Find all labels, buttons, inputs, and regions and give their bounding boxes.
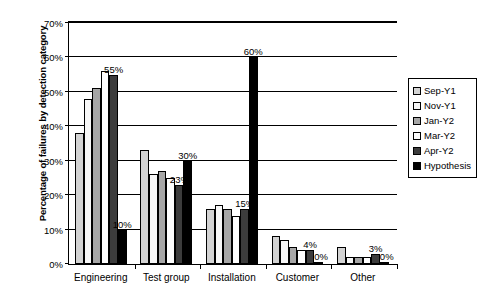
- bar[interactable]: [363, 257, 372, 264]
- bar[interactable]: 10%: [118, 230, 127, 264]
- y-tick-label: 60%: [19, 52, 69, 63]
- bar-value-label: 10%: [113, 219, 132, 230]
- bar[interactable]: [280, 240, 289, 264]
- legend-label: Mar-Y2: [424, 131, 455, 141]
- bar[interactable]: [215, 205, 224, 264]
- legend-label: Jan-Y2: [424, 116, 454, 126]
- y-tick-label: 30%: [19, 155, 69, 166]
- bar[interactable]: 23%: [175, 185, 184, 264]
- bar-value-label: 4%: [303, 239, 317, 250]
- legend-swatch-icon: [413, 147, 421, 155]
- bar[interactable]: 0%: [380, 262, 389, 264]
- chart-legend: Sep-Y1Nov-Y1Jan-Y2Mar-Y2Apr-Y2Hypothesis: [408, 78, 477, 178]
- legend-swatch-icon: [413, 87, 421, 95]
- bar[interactable]: 15%: [240, 209, 249, 264]
- bar-group: 4%0%: [266, 22, 332, 264]
- bar[interactable]: [297, 250, 306, 264]
- x-axis-label-test-group: Test group: [143, 272, 190, 283]
- bars-row: 55%10%: [69, 22, 140, 264]
- x-axis-label-installation: Installation: [208, 272, 256, 283]
- bar[interactable]: [223, 209, 232, 264]
- bar-value-label: 0%: [314, 251, 328, 262]
- plot-inner: 0%10%20%30%40%50%60%70%55%10%23%30%15%60…: [69, 22, 397, 264]
- legend-item[interactable]: Hypothesis: [413, 158, 471, 173]
- y-tick-label: 70%: [19, 17, 69, 28]
- x-axis-label-other: Other: [350, 272, 375, 283]
- bars-row: 23%30%: [135, 22, 206, 264]
- bar[interactable]: [149, 174, 158, 264]
- x-axis-tick: [331, 264, 332, 269]
- plot-area: 0%10%20%30%40%50%60%70%55%10%23%30%15%60…: [68, 21, 397, 265]
- bar-group: 55%10%: [69, 22, 135, 264]
- bar[interactable]: [232, 216, 241, 264]
- legend-item[interactable]: Jan-Y2: [413, 113, 471, 128]
- bar[interactable]: 30%: [183, 161, 192, 264]
- bar[interactable]: [140, 150, 149, 264]
- bar-chart: Percentage of failures by detection cate…: [0, 0, 502, 300]
- y-tick-label: 20%: [19, 190, 69, 201]
- legend-item[interactable]: Sep-Y1: [413, 83, 471, 98]
- bar[interactable]: 3%: [371, 254, 380, 264]
- legend-label: Hypothesis: [424, 161, 471, 171]
- y-tick-label: 50%: [19, 86, 69, 97]
- bars-row: 15%60%: [200, 22, 271, 264]
- bar[interactable]: [354, 257, 363, 264]
- bar-value-label: 60%: [244, 46, 263, 57]
- bar[interactable]: [75, 133, 84, 264]
- x-axis-label-engineering: Engineering: [74, 272, 127, 283]
- bar[interactable]: [346, 257, 355, 264]
- bars-row: 3%0%: [331, 22, 402, 264]
- bar[interactable]: 4%: [306, 250, 315, 264]
- x-axis-tick: [397, 264, 398, 269]
- bar[interactable]: [206, 209, 215, 264]
- legend-swatch-icon: [413, 102, 421, 110]
- legend-swatch-icon: [413, 117, 421, 125]
- legend-item[interactable]: Mar-Y2: [413, 128, 471, 143]
- legend-label: Sep-Y1: [424, 86, 456, 96]
- bar[interactable]: [101, 71, 110, 264]
- legend-swatch-icon: [413, 162, 421, 170]
- bars-row: 4%0%: [266, 22, 337, 264]
- bar-group: 15%60%: [200, 22, 266, 264]
- x-axis-label-customer: Customer: [276, 272, 319, 283]
- bar[interactable]: [289, 247, 298, 264]
- legend-item[interactable]: Apr-Y2: [413, 143, 471, 158]
- bar[interactable]: [272, 236, 281, 264]
- bar-group: 3%0%: [331, 22, 397, 264]
- bar-group: 23%30%: [135, 22, 201, 264]
- y-tick-label: 10%: [19, 224, 69, 235]
- bar[interactable]: 60%: [249, 57, 258, 264]
- bar[interactable]: [158, 171, 167, 264]
- legend-item[interactable]: Nov-Y1: [413, 98, 471, 113]
- bar-value-label: 55%: [104, 64, 123, 75]
- bar[interactable]: 0%: [314, 262, 323, 264]
- x-axis-tick: [135, 264, 136, 269]
- legend-label: Nov-Y1: [424, 101, 456, 111]
- bar[interactable]: [84, 99, 93, 264]
- y-tick-label: 40%: [19, 121, 69, 132]
- bar[interactable]: [92, 88, 101, 264]
- bar-value-label: 0%: [380, 251, 394, 262]
- bar[interactable]: [337, 247, 346, 264]
- legend-swatch-icon: [413, 132, 421, 140]
- bar-value-label: 30%: [178, 150, 197, 161]
- bar[interactable]: 55%: [109, 75, 118, 265]
- x-axis-tick: [266, 264, 267, 269]
- y-tick-label: 0%: [19, 259, 69, 270]
- legend-label: Apr-Y2: [424, 146, 454, 156]
- x-axis-tick: [200, 264, 201, 269]
- bar[interactable]: [166, 178, 175, 264]
